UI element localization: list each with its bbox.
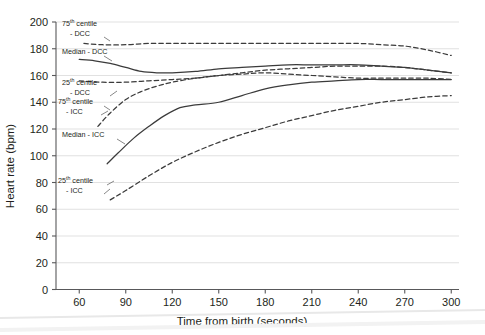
y-tick-label: 180	[30, 43, 48, 55]
ann-75-dcc-word: centile	[74, 19, 97, 28]
y-tick-label: 100	[30, 150, 48, 162]
ann-75-icc-word: centile	[70, 97, 93, 106]
ann-25-dcc-number: 25	[62, 78, 70, 87]
svg-text:25th centile: 25th centile	[58, 175, 93, 185]
ann-75-dcc-number: 75	[62, 19, 70, 28]
y-tick-label: 160	[30, 70, 48, 82]
svg-text:75th centile: 75th centile	[58, 96, 93, 106]
ann-25-icc-line2: - ICC	[66, 186, 83, 195]
y-tick-label: 200	[30, 16, 48, 28]
ann-75-icc-line2: - ICC	[66, 107, 83, 116]
ann-75-icc-number: 75	[58, 97, 66, 106]
ann-25-icc-number: 25	[58, 176, 66, 185]
y-tick-label: 20	[36, 257, 48, 269]
y-tick-label: 40	[36, 230, 48, 242]
svg-text:75th centile: 75th centile	[62, 18, 97, 28]
annotation-median-icc: Median - ICC	[62, 130, 104, 139]
svg-text:25th centile: 25th centile	[62, 77, 97, 87]
y-tick-label: 60	[36, 203, 48, 215]
y-tick-label: 120	[30, 123, 48, 135]
chart-figure: 020406080100120140160180200 609012015018…	[0, 0, 485, 335]
y-tick-label: 0	[42, 284, 48, 296]
x-tick-label: 270	[396, 296, 414, 308]
annotation-median-dcc: Median - DCC	[62, 47, 108, 56]
y-axis-title: Heart rate (bpm)	[4, 124, 16, 209]
x-tick-label: 120	[163, 296, 181, 308]
x-tick-label: 240	[349, 296, 367, 308]
x-tick-label: 300	[442, 296, 460, 308]
ann-75-dcc-line2: - DCC	[70, 29, 90, 38]
ann-25-dcc-word: centile	[74, 78, 97, 87]
x-tick-label: 150	[210, 296, 228, 308]
x-tick-label: 210	[303, 296, 321, 308]
chart-svg: 020406080100120140160180200 609012015018…	[0, 0, 485, 335]
x-tick-label: 60	[73, 296, 85, 308]
x-tick-label: 90	[120, 296, 132, 308]
y-tick-label: 140	[30, 96, 48, 108]
ann-25-icc-word: centile	[70, 176, 93, 185]
y-tick-label: 80	[36, 177, 48, 189]
ann-25-dcc-line2: - DCC	[70, 88, 90, 97]
x-tick-label: 180	[256, 296, 274, 308]
